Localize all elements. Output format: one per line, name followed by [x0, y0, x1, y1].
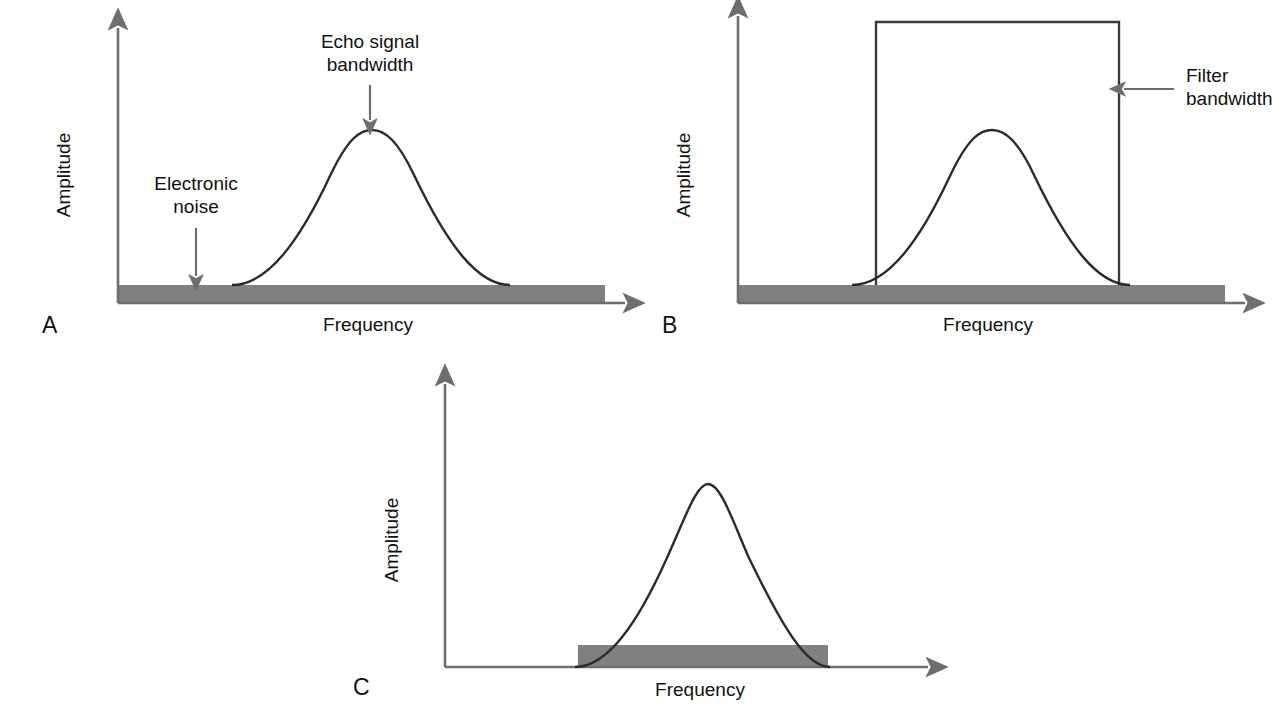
x-axis-label-b: Frequency: [943, 314, 1033, 335]
echo-signal-bandwidth-label-line2: bandwidth: [327, 54, 414, 75]
panel-letter-b: B: [662, 312, 677, 338]
x-axis-label-a: Frequency: [323, 314, 413, 335]
filter-bandwidth-label-line1: Filter: [1186, 65, 1229, 86]
electronic-noise-label-line1: Electronic: [154, 173, 237, 194]
filter-bandwidth-label-line2: bandwidth: [1186, 88, 1273, 109]
electronic-noise-band-b: [738, 285, 1225, 303]
y-axis-label-a: Amplitude: [53, 133, 74, 218]
echo-signal-bandwidth-label-line1: Echo signal: [321, 31, 419, 52]
electronic-noise-label-line2: noise: [173, 196, 218, 217]
electronic-noise-band-c: [578, 645, 828, 667]
panel-letter-a: A: [42, 312, 58, 338]
y-axis-label-c: Amplitude: [381, 498, 402, 583]
signal-bandwidth-figure: Echo signal bandwidth Electronic noise F…: [0, 0, 1286, 713]
y-axis-label-b: Amplitude: [673, 133, 694, 218]
panel-letter-c: C: [353, 674, 370, 700]
electronic-noise-band-a: [118, 285, 605, 303]
x-axis-label-c: Frequency: [655, 679, 745, 700]
